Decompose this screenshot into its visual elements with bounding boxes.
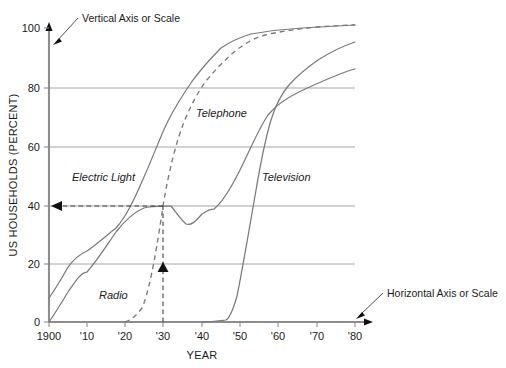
x-tick-label-1960: '60 xyxy=(271,330,285,342)
y-tick-labels: 100 80 60 40 20 0 xyxy=(22,22,40,328)
y-tick-label-40: 40 xyxy=(28,200,40,212)
series-label-television: Television xyxy=(262,171,311,183)
y-tick-label-20: 20 xyxy=(28,258,40,270)
chart-figure: 100 80 60 40 20 0 1900 '10 '20 '30 '40 '… xyxy=(0,0,506,368)
x-tick-label-1940: '40 xyxy=(195,330,209,342)
x-axis-title: YEAR xyxy=(187,349,218,361)
callout-horizontal-axis-label: Horizontal Axis or Scale xyxy=(387,287,498,299)
callout-horizontal-axis-arrowhead xyxy=(356,312,365,319)
y-tick-label-0: 0 xyxy=(34,316,40,328)
y-tick-label-80: 80 xyxy=(28,82,40,94)
y-tick-label-60: 60 xyxy=(28,141,40,153)
x-tick-labels: 1900 '10 '20 '30 '40 '50 '60 '70 '80 xyxy=(37,330,362,342)
reading-guide xyxy=(51,201,169,322)
callout-vertical-axis-leader xyxy=(57,18,78,41)
callout-vertical-axis-arrowhead xyxy=(53,38,62,45)
guide-marker-triangle xyxy=(158,262,169,272)
y-axis-title: US HOUSEHOLDS (PERCENT) xyxy=(7,94,19,257)
x-tick-label-1920: '20 xyxy=(118,330,132,342)
line-chart-canvas: 100 80 60 40 20 0 1900 '10 '20 '30 '40 '… xyxy=(0,0,506,368)
x-tick-label-1930: '30 xyxy=(156,330,170,342)
guide-arrow-left xyxy=(51,201,62,211)
series-label-electric-light: Electric Light xyxy=(72,171,136,183)
callout-vertical-axis: Vertical Axis or Scale xyxy=(53,12,180,45)
series-label-telephone: Telephone xyxy=(196,107,247,119)
x-tick-label-1900: 1900 xyxy=(37,330,61,342)
x-tick-label-1970: '70 xyxy=(310,330,324,342)
x-tick-label-1950: '50 xyxy=(233,330,247,342)
callout-horizontal-axis: Horizontal Axis or Scale xyxy=(356,287,498,319)
x-tick-label-1910: '10 xyxy=(80,330,94,342)
x-axis-arrowhead xyxy=(364,318,373,325)
x-tick-label-1980: '80 xyxy=(348,330,362,342)
callout-horizontal-axis-leader xyxy=(360,293,383,315)
series-labels: Electric Light Telephone Radio Televisio… xyxy=(72,107,311,301)
y-axis-arrowhead xyxy=(45,22,52,31)
callout-vertical-axis-label: Vertical Axis or Scale xyxy=(82,12,180,24)
series-label-radio: Radio xyxy=(99,289,128,301)
y-tick-label-100: 100 xyxy=(22,22,40,34)
